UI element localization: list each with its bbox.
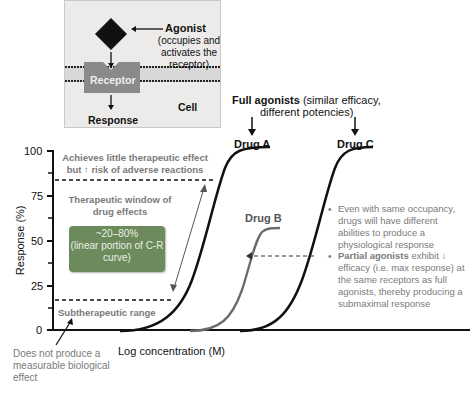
y-axis bbox=[47, 150, 53, 331]
response-label: Response bbox=[88, 114, 138, 126]
y-tick-75: 75 bbox=[31, 190, 43, 203]
receptor-label: Receptor bbox=[90, 74, 136, 86]
full-agonists-caption-2: different potencies) bbox=[260, 106, 353, 119]
no-effect-1: Does not produce a bbox=[13, 348, 100, 360]
little-effect-2: but ↑ risk of adverse reactions bbox=[60, 165, 210, 176]
y-tick-0: 0 bbox=[36, 324, 42, 337]
little-effect-1: Achieves little therapeutic effect bbox=[60, 153, 210, 164]
full-agonists-caption: Full agonists (similar efficacy, bbox=[232, 94, 381, 107]
no-effect-2: measurable biological bbox=[13, 360, 110, 372]
y-tick-100: 100 bbox=[24, 145, 42, 158]
y-tick-50: 50 bbox=[31, 235, 43, 248]
bullet-2-line-2: efficacy (i.e. max response) at bbox=[338, 263, 465, 274]
y-axis-label: Response (%) bbox=[14, 200, 27, 280]
y-tick-25: 25 bbox=[31, 280, 43, 293]
bullet-2-line-3: the same receptors as full bbox=[338, 275, 447, 286]
subtherapeutic-label: Subtherapeutic range bbox=[58, 308, 156, 319]
x-axis-label: Log concentration (M) bbox=[118, 345, 225, 358]
bullet-2-dot: • bbox=[328, 251, 332, 263]
linear-portion-box: ~20–80% (linear portion of C-R curve) bbox=[69, 226, 165, 272]
window-1: Therapeutic window of bbox=[60, 195, 180, 206]
agonist-diamond bbox=[95, 18, 127, 50]
bullet-1-dot: • bbox=[328, 204, 332, 216]
bullet-1-line-2: drugs will have different bbox=[338, 216, 438, 227]
bullet-1-line-3: abilities to produce a bbox=[338, 228, 425, 239]
drug-a-label: Drug A bbox=[234, 138, 270, 151]
bullet-1-line-1: Even with same occupancy, bbox=[338, 204, 455, 215]
agonist-desc-2: activates the bbox=[154, 47, 224, 59]
bullet-2-line-5: submaximal response bbox=[338, 299, 430, 310]
cell-label: Cell bbox=[178, 101, 197, 113]
bullet-2-line-4: agonists, thereby producing a bbox=[338, 287, 463, 298]
agonist-desc-1: (occupies and bbox=[154, 35, 224, 47]
bullet-2-line-1: Partial agonists exhibit ↓ bbox=[338, 251, 446, 262]
no-effect-3: effect bbox=[13, 372, 37, 384]
agonist-label: Agonist bbox=[165, 22, 206, 35]
agonist-desc-3: receptor) bbox=[154, 59, 224, 71]
window-2: drug effects bbox=[60, 207, 180, 218]
drug-c-label: Drug C bbox=[337, 138, 374, 151]
drug-b-label: Drug B bbox=[245, 212, 282, 225]
